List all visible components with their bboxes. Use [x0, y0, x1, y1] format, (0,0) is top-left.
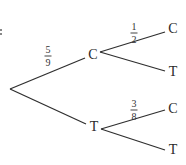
- branch-C-to-T: [100, 52, 165, 71]
- node-level1-T: T: [90, 120, 99, 134]
- node-level1-C: C: [88, 48, 97, 62]
- probability-C-given-T: 3 8: [131, 99, 138, 122]
- node-TT: T: [169, 143, 178, 157]
- fraction-numerator: 3: [132, 99, 137, 109]
- branch-T-to-T: [101, 129, 165, 150]
- probability-C-given-C: 1 2: [131, 22, 138, 45]
- fraction-denominator: 2: [132, 35, 137, 45]
- tree-branches: [0, 0, 186, 165]
- node-TC: C: [168, 102, 177, 116]
- branch-root-to-T: [10, 89, 86, 124]
- node-CT: T: [169, 65, 178, 79]
- fraction-numerator: 1: [132, 22, 137, 32]
- clipped-colon-mark: [0, 29, 2, 35]
- fraction-numerator: 5: [46, 45, 51, 55]
- fraction-denominator: 9: [46, 58, 51, 68]
- fraction-denominator: 8: [132, 112, 137, 122]
- node-CC: C: [168, 22, 177, 36]
- probability-tree-diagram: C T C T C T 5 9 1 2 3 8: [0, 0, 186, 165]
- probability-C: 5 9: [45, 45, 52, 68]
